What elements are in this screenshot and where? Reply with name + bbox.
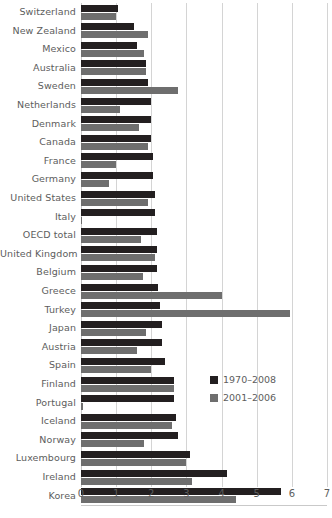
bar-iceland-series1 [81, 414, 176, 421]
bar-turkey-series2 [81, 310, 290, 317]
bar-switzerland-series2 [81, 13, 116, 20]
bar-group [81, 468, 327, 487]
category-label: France [0, 152, 76, 171]
bar-group [81, 59, 327, 78]
bar-portugal-series1 [81, 395, 174, 402]
bar-group [81, 263, 327, 282]
bar-oecd-total-series2 [81, 236, 141, 243]
category-label: Netherlands [0, 96, 76, 115]
category-label: Denmark [0, 115, 76, 134]
legend-item: 1970–2008 [210, 372, 320, 387]
bar-group [81, 170, 327, 189]
x-tick-label: 6 [289, 488, 295, 499]
bar-germany-series1 [81, 172, 153, 179]
bar-sweden-series1 [81, 79, 148, 86]
x-tick-label: 5 [254, 488, 260, 499]
legend-swatch-icon [210, 394, 218, 402]
x-tick-label: 3 [183, 488, 189, 499]
bar-france-series2 [81, 161, 116, 168]
bar-group [81, 133, 327, 152]
bar-japan-series2 [81, 329, 146, 336]
category-label: Austria [0, 338, 76, 357]
bar-belgium-series2 [81, 273, 143, 280]
bar-united-kingdom-series1 [81, 246, 157, 253]
category-label: New Zealand [0, 22, 76, 41]
chart-legend: 1970–20082001–2006 [210, 372, 320, 408]
category-label: Turkey [0, 301, 76, 320]
bar-united-states-series2 [81, 199, 148, 206]
legend-swatch-icon [210, 376, 218, 384]
bar-germany-series2 [81, 180, 109, 187]
category-label: Norway [0, 431, 76, 450]
bar-portugal-series2 [81, 403, 83, 410]
category-label: OECD total [0, 226, 76, 245]
category-label: Luxembourg [0, 449, 76, 468]
category-label: Spain [0, 356, 76, 375]
bar-group [81, 3, 327, 22]
bar-denmark-series2 [81, 124, 139, 131]
x-tick-label: 1 [113, 488, 119, 499]
bar-finland-series1 [81, 377, 174, 384]
bar-norway-series2 [81, 440, 144, 447]
plot-area [81, 3, 327, 487]
category-label: Iceland [0, 412, 76, 431]
bar-group [81, 115, 327, 134]
gridline-7 [327, 3, 328, 487]
bar-luxembourg-series2 [81, 459, 186, 466]
bar-group [81, 245, 327, 264]
bar-group [81, 189, 327, 208]
bar-ireland-series2 [81, 478, 192, 485]
bar-sweden-series2 [81, 87, 178, 94]
x-tick-label: 0 [78, 488, 84, 499]
bar-group [81, 77, 327, 96]
bar-canada-series1 [81, 135, 151, 142]
bar-austria-series1 [81, 339, 162, 346]
bar-italy-series2 [81, 217, 82, 224]
category-label: United Kingdom [0, 245, 76, 264]
bar-greece-series2 [81, 292, 222, 299]
bar-ireland-series1 [81, 470, 227, 477]
bar-group [81, 301, 327, 320]
category-label: Belgium [0, 263, 76, 282]
bar-iceland-series2 [81, 422, 172, 429]
bar-oecd-total-series1 [81, 228, 157, 235]
bar-group [81, 40, 327, 59]
category-label: Ireland [0, 468, 76, 487]
bar-australia-series1 [81, 60, 146, 67]
bar-finland-series2 [81, 385, 174, 392]
bar-norway-series1 [81, 432, 178, 439]
category-label: United States [0, 189, 76, 208]
category-label: Germany [0, 170, 76, 189]
category-label: Switzerland [0, 3, 76, 22]
bar-spain-series2 [81, 366, 151, 373]
bar-mexico-series2 [81, 50, 144, 57]
category-label: Sweden [0, 77, 76, 96]
legend-item: 2001–2006 [210, 390, 320, 405]
bar-group [81, 208, 327, 227]
bar-italy-series1 [81, 209, 155, 216]
category-label: Canada [0, 133, 76, 152]
legend-label: 1970–2008 [223, 374, 276, 385]
bar-group [81, 152, 327, 171]
bar-luxembourg-series1 [81, 451, 190, 458]
bar-group [81, 449, 327, 468]
bar-japan-series1 [81, 321, 162, 328]
x-tick-label: 4 [218, 488, 224, 499]
bar-new-zealand-series2 [81, 31, 148, 38]
bar-group [81, 96, 327, 115]
bar-austria-series2 [81, 347, 137, 354]
bar-belgium-series1 [81, 265, 157, 272]
bar-netherlands-series1 [81, 98, 151, 105]
bar-france-series1 [81, 153, 153, 160]
bar-united-kingdom-series2 [81, 254, 155, 261]
category-label: Greece [0, 282, 76, 301]
x-tick-label: 2 [148, 488, 154, 499]
bar-netherlands-series2 [81, 106, 120, 113]
category-label: Australia [0, 59, 76, 78]
bar-group [81, 22, 327, 41]
bar-group [81, 282, 327, 301]
bar-group [81, 338, 327, 357]
category-label: Mexico [0, 40, 76, 59]
bar-australia-series2 [81, 68, 146, 75]
x-tick-label: 7 [324, 488, 330, 499]
